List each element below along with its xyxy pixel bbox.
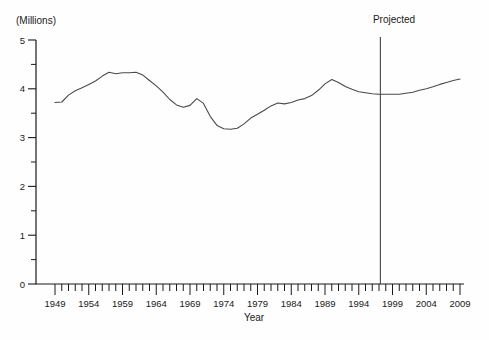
x-tick-label: 1974 xyxy=(213,298,234,309)
x-tick-label: 1979 xyxy=(247,298,268,309)
y-tick-label: 5 xyxy=(20,35,25,46)
x-tick-label: 1994 xyxy=(348,298,369,309)
y-tick-label: 4 xyxy=(20,83,25,94)
y-tick-label: 2 xyxy=(20,181,25,192)
line-chart: (Millions) Projected 0123451949195419591… xyxy=(0,0,489,340)
x-tick-label: 1984 xyxy=(281,298,302,309)
y-axis-title: (Millions) xyxy=(16,15,56,26)
x-tick-label: 1964 xyxy=(146,298,167,309)
x-tick-label: 1949 xyxy=(44,298,65,309)
x-tick-label: 2004 xyxy=(416,298,437,309)
x-tick-label: 1969 xyxy=(179,298,200,309)
x-axis-title: Year xyxy=(224,312,284,323)
x-tick-label: 1959 xyxy=(112,298,133,309)
x-tick-label: 1989 xyxy=(314,298,335,309)
axes xyxy=(36,40,464,284)
x-tick-label: 1954 xyxy=(78,298,99,309)
y-tick-label: 3 xyxy=(20,132,25,143)
y-tick-label: 1 xyxy=(20,230,25,241)
x-tick-label: 2009 xyxy=(449,298,470,309)
data-line xyxy=(55,72,460,129)
chart-svg: 0123451949195419591964196919741979198419… xyxy=(0,0,489,340)
projected-annotation-label: Projected xyxy=(360,14,428,25)
y-tick-label: 0 xyxy=(20,279,25,290)
x-tick-label: 1999 xyxy=(382,298,403,309)
